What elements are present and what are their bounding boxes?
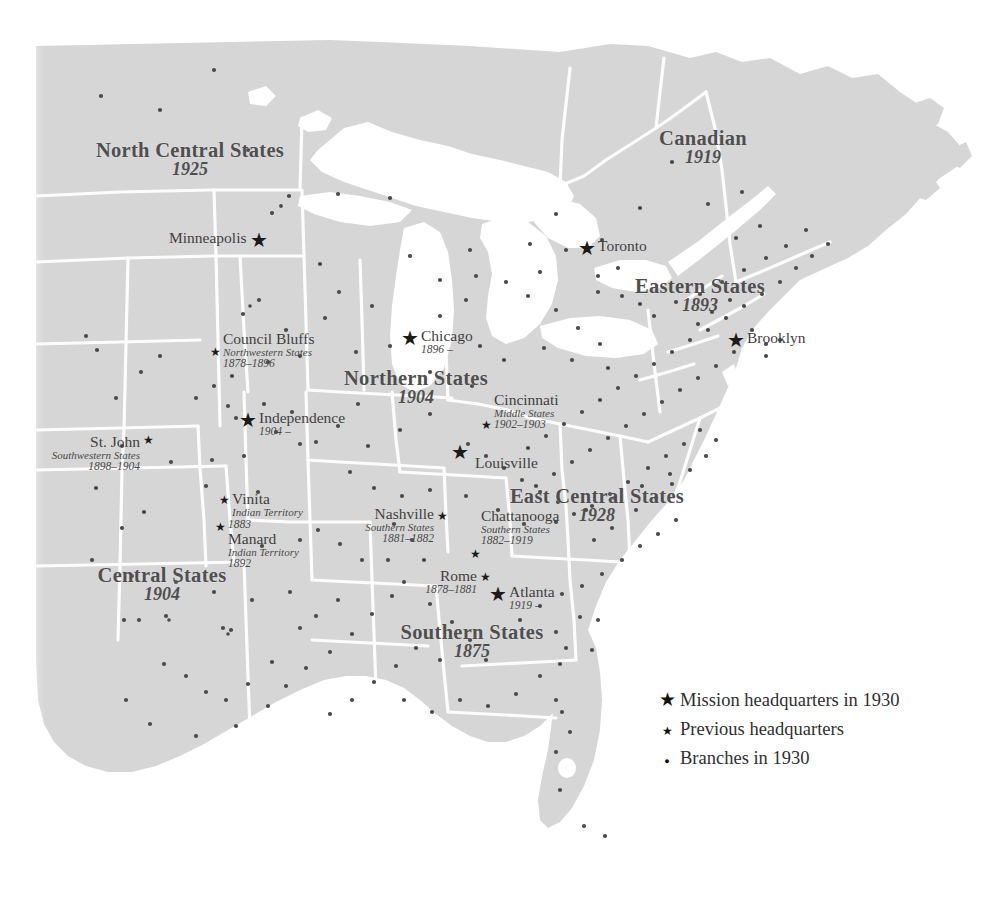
city-label: Rome 1878–1881: [411, 568, 477, 596]
city-name: Independence: [259, 410, 345, 426]
star-small-icon: ★: [470, 548, 481, 560]
region-label-eastern-states: Eastern States 1893: [580, 276, 820, 316]
city-name: Council Bluffs: [223, 331, 314, 347]
legend-item-mission-headquarters: ★ Mission headquarters in 1930: [654, 688, 954, 711]
city-marker-council-bluffs[interactable]: ★ Council Bluffs Northwestern States 187…: [210, 331, 314, 370]
city-name: Cincinnati: [494, 392, 559, 408]
star-large-icon: ★: [654, 688, 680, 711]
star-small-icon: ★: [654, 724, 680, 739]
historical-mission-map: North Central States 1925 Canadian 1919 …: [0, 0, 997, 899]
star-small-icon: ★: [437, 510, 448, 522]
legend-label: Previous headquarters: [680, 719, 844, 740]
city-marker-independence[interactable]: ★ Independence 1904 –: [239, 410, 345, 438]
city-year: 1904 –: [259, 426, 345, 438]
city-label: Toronto: [598, 238, 647, 254]
city-year: 1878–1881: [411, 584, 477, 596]
region-year: 1919: [583, 148, 823, 168]
region-label-canadian: Canadian 1919: [583, 128, 823, 168]
city-marker-toronto[interactable]: ★ Toronto: [578, 238, 647, 258]
city-name: Minneapolis: [169, 230, 247, 246]
city-name: Manard: [228, 531, 299, 547]
region-label-central-states: Central States 1904: [42, 565, 282, 605]
region-year: 1875: [352, 642, 592, 662]
city-marker-brooklyn[interactable]: ★ Brooklyn: [727, 330, 806, 350]
star-large-icon: ★: [451, 442, 469, 462]
city-marker-vinita[interactable]: ★ Vinita Indian Territory: [219, 491, 303, 518]
city-marker-minneapolis[interactable]: Minneapolis ★: [169, 230, 268, 250]
city-year: 1882–1919: [481, 535, 559, 547]
city-name: Chicago: [421, 328, 473, 344]
city-marker-st-john[interactable]: St. John Southwestern States 1898–1904 ★: [36, 434, 154, 473]
star-small-icon: ★: [215, 521, 226, 533]
region-name: Northern States: [296, 368, 536, 389]
region-name: Eastern States: [580, 276, 820, 297]
city-name: Toronto: [598, 238, 647, 254]
star-small-icon: ★: [481, 419, 492, 431]
city-name: Louisville: [475, 455, 538, 471]
city-label: Nashville Southern States 1881–1882: [338, 506, 434, 545]
region-year: 1904: [42, 585, 282, 605]
star-large-icon: ★: [239, 410, 257, 430]
region-year: 1893: [580, 296, 820, 316]
page-edge-fade: [0, 0, 40, 899]
dot-icon: ●: [654, 756, 680, 766]
map-legend: ★ Mission headquarters in 1930 ★ Previou…: [654, 688, 954, 777]
city-name: Rome: [411, 568, 477, 584]
city-marker-chattanooga[interactable]: ★ Chattanooga Southern States 1882–1919: [468, 508, 562, 547]
city-marker-atlanta[interactable]: ★ Atlanta 1919 –: [489, 584, 555, 612]
star-large-icon: ★: [250, 230, 268, 250]
star-large-icon: ★: [578, 238, 596, 258]
city-year: 1892: [228, 558, 299, 570]
region-label-north-central-states: North Central States 1925: [30, 140, 350, 180]
city-label: Vinita Indian Territory: [232, 491, 303, 518]
city-year: 1902–1903: [494, 419, 559, 431]
city-marker-manard[interactable]: ★ 1883 Manard Indian Territory 1892: [215, 519, 299, 570]
region-name: Canadian: [583, 128, 823, 149]
legend-label: Branches in 1930: [680, 748, 809, 769]
city-label: St. John Southwestern States 1898–1904: [36, 434, 140, 473]
star-small-icon: ★: [143, 434, 154, 446]
city-marker-chicago[interactable]: ★ Chicago 1896 –: [401, 328, 473, 356]
city-label-text: Chattanooga Southern States 1882–1919: [481, 508, 559, 547]
region-name: East Central States: [457, 486, 737, 507]
city-label: 1883 Manard Indian Territory 1892: [228, 519, 299, 570]
city-label: Atlanta 1919 –: [509, 584, 555, 612]
region-year: 1925: [30, 160, 350, 180]
city-year: 1896 –: [421, 344, 473, 356]
city-label: Minneapolis: [169, 230, 247, 246]
city-marker-rome[interactable]: Rome 1878–1881 ★: [411, 568, 491, 596]
city-label: Chicago 1896 –: [421, 328, 473, 356]
city-year: 1919 –: [509, 600, 555, 612]
star-small-icon: ★: [219, 494, 230, 506]
region-name: Southern States: [352, 622, 592, 643]
city-label: Cincinnati Middle States 1902–1903: [494, 392, 559, 431]
city-name: Atlanta: [509, 584, 555, 600]
city-year: 1878–1896: [223, 358, 314, 370]
city-label: Louisville: [475, 455, 538, 471]
city-name: Vinita: [232, 491, 303, 507]
region-label-southern-states: Southern States 1875: [352, 622, 592, 662]
city-label: Council Bluffs Northwestern States 1878–…: [223, 331, 314, 370]
city-name: St. John: [36, 434, 140, 450]
star-small-icon: ★: [210, 346, 221, 358]
legend-label: Mission headquarters in 1930: [680, 690, 899, 711]
city-marker-louisville[interactable]: ★ Louisville: [451, 442, 538, 471]
region-name: North Central States: [30, 140, 350, 161]
city-name: Nashville: [338, 506, 434, 522]
legend-item-branches: ● Branches in 1930: [654, 748, 954, 769]
city-marker-cincinnati[interactable]: ★ Cincinnati Middle States 1902–1903: [481, 392, 559, 431]
city-label: Independence 1904 –: [259, 410, 345, 438]
star-small-icon: ★: [480, 571, 491, 583]
city-year: 1898–1904: [36, 461, 140, 473]
star-large-icon: ★: [401, 328, 419, 348]
city-label: Brooklyn: [747, 330, 806, 346]
star-large-icon: ★: [727, 330, 745, 350]
city-name: Brooklyn: [747, 330, 806, 346]
city-year: 1881–1882: [338, 533, 434, 545]
city-name: Chattanooga: [481, 508, 559, 524]
star-large-icon: ★: [489, 584, 507, 604]
city-marker-nashville[interactable]: Nashville Southern States 1881–1882 ★: [338, 506, 448, 545]
city-sub: Indian Territory: [232, 507, 303, 518]
legend-item-previous-headquarters: ★ Previous headquarters: [654, 719, 954, 740]
